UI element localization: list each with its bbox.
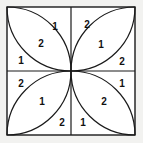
region-label-top-left-petal: 2 bbox=[38, 38, 44, 49]
petal-diagram-figure: 1 2 1 2 1 2 2 1 2 1 2 1 bbox=[0, 0, 143, 143]
region-label-bottom-right-outer: 1 bbox=[119, 78, 125, 89]
diagram-canvas: 1 2 1 2 1 2 2 1 2 1 2 1 bbox=[0, 0, 143, 143]
region-label-bottom-left-inner: 2 bbox=[59, 117, 65, 128]
region-label-bottom-right-petal: 2 bbox=[101, 96, 107, 107]
region-label-top-right-inner: 2 bbox=[119, 56, 125, 67]
region-label-top-right-outer: 2 bbox=[84, 19, 90, 30]
region-label-bottom-right-inner: 1 bbox=[80, 117, 86, 128]
region-label-top-right-petal: 1 bbox=[98, 39, 104, 50]
region-label-top-left-inner: 1 bbox=[18, 55, 24, 66]
region-label-top-left-outer: 1 bbox=[52, 21, 58, 32]
region-label-bottom-left-petal: 1 bbox=[39, 96, 45, 107]
region-label-bottom-left-outer: 2 bbox=[18, 78, 24, 89]
